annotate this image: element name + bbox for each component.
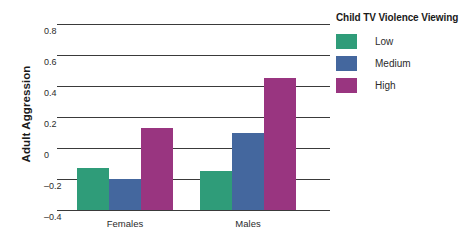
y-tick-label: 0.8: [44, 26, 57, 37]
y-axis-title: Adult Aggression: [20, 44, 32, 184]
gridline: [57, 210, 330, 211]
y-tick-label: 0.4: [44, 88, 57, 99]
x-category-label: Males: [190, 218, 306, 229]
y-tick-label: 0: [44, 150, 49, 161]
chart-legend: Child TV Violence Viewing LowMediumHigh: [336, 12, 458, 96]
legend-swatch-icon: [336, 78, 357, 93]
bar-females-high: [141, 128, 173, 210]
bar-males-low: [200, 171, 232, 210]
bar-females-low: [77, 168, 109, 210]
legend-item-label: Medium: [375, 58, 411, 69]
legend-swatch-icon: [336, 34, 357, 49]
y-tick-label: 0.2: [44, 119, 57, 130]
gridline: [57, 24, 330, 25]
plot-area: 0.80.60.40.20–0.2–0.4FemalesMales: [57, 24, 330, 210]
legend-item-high[interactable]: High: [336, 74, 458, 96]
gridline: [57, 55, 330, 56]
bar-chart: Adult Aggression 0.80.60.40.20–0.2–0.4Fe…: [0, 0, 461, 241]
x-category-label: Females: [67, 218, 183, 229]
legend-item-label: High: [375, 80, 396, 91]
legend-items: LowMediumHigh: [336, 30, 458, 96]
legend-title: Child TV Violence Viewing: [336, 12, 458, 23]
bar-males-medium: [232, 133, 264, 211]
y-tick-label: 0.6: [44, 57, 57, 68]
legend-swatch-icon: [336, 56, 357, 71]
y-tick-label: –0.4: [44, 212, 62, 223]
y-tick-label: –0.2: [44, 181, 62, 192]
legend-item-low[interactable]: Low: [336, 30, 458, 52]
legend-item-label: Low: [375, 36, 393, 47]
legend-item-medium[interactable]: Medium: [336, 52, 458, 74]
bar-males-high: [264, 78, 296, 210]
bar-females-medium: [109, 179, 141, 210]
